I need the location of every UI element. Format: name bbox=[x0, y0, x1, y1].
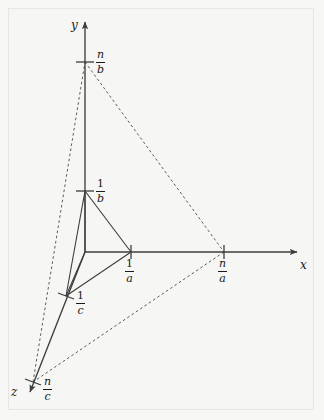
tick-label-one-over-b-denominator: b bbox=[96, 193, 105, 205]
axis-label-z: z bbox=[11, 386, 17, 398]
tick-label-n-over-b: n b bbox=[96, 49, 105, 75]
axis-label-x: x bbox=[300, 259, 307, 271]
inner-plane-solid bbox=[66, 191, 131, 296]
outer-plane-dashed bbox=[33, 62, 224, 382]
figure-canvas: x y z n b 1 b 1 a n a 1 c n c bbox=[0, 0, 324, 420]
tick-label-one-over-b-numerator: 1 bbox=[96, 178, 105, 190]
tick-label-n-over-b-denominator: b bbox=[96, 64, 105, 76]
tick-label-n-over-b-numerator: n bbox=[96, 49, 105, 61]
tick-label-n-over-c: n c bbox=[43, 376, 52, 402]
tick-label-one-over-c: 1 c bbox=[76, 290, 85, 316]
axis-lines bbox=[30, 22, 297, 392]
tick-label-one-over-b: 1 b bbox=[96, 178, 105, 204]
axis-label-y: y bbox=[71, 19, 78, 31]
tick-label-n-over-a-denominator: a bbox=[218, 273, 227, 285]
tick-label-one-over-a: 1 a bbox=[125, 258, 134, 284]
tick-label-n-over-c-denominator: c bbox=[43, 391, 52, 403]
diagram-svg bbox=[0, 0, 324, 420]
tick-label-one-over-a-numerator: 1 bbox=[125, 258, 134, 270]
tick-label-n-over-c-numerator: n bbox=[43, 376, 52, 388]
z-axis-line bbox=[30, 252, 85, 392]
tick-marks bbox=[25, 62, 224, 385]
tick-label-n-over-a-numerator: n bbox=[218, 258, 227, 270]
tick-label-one-over-a-denominator: a bbox=[125, 273, 134, 285]
tick-label-n-over-a: n a bbox=[218, 258, 227, 284]
tick-label-one-over-c-denominator: c bbox=[76, 305, 85, 317]
tick-label-one-over-c-numerator: 1 bbox=[76, 290, 85, 302]
